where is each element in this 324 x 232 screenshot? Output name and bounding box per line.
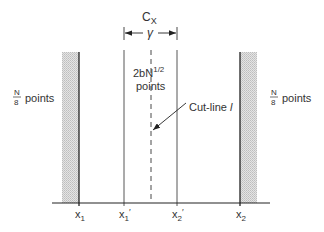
x2-label-sub: 2 xyxy=(242,214,247,223)
left-point-band xyxy=(62,52,79,203)
cut-line-pointer xyxy=(153,103,186,130)
x2-prime-mark: ′ xyxy=(182,207,184,217)
svg-text:x2: x2 xyxy=(236,208,247,223)
svg-text:CX: CX xyxy=(142,10,157,26)
cut-line-diagram: CX γ 2bN1/2 points Cut-linel N 8 points … xyxy=(0,0,324,232)
left-points-label: points xyxy=(25,92,55,104)
x1-label-sub: 1 xyxy=(81,214,86,223)
center-label-points: points xyxy=(136,80,166,92)
svg-text:x1′: x1′ xyxy=(119,207,131,223)
right-fraction-num: N xyxy=(271,88,277,97)
left-fraction-num: N xyxy=(14,88,20,97)
center-label-sup: 1/2 xyxy=(153,65,165,74)
center-label-main: 2bN xyxy=(133,67,153,79)
svg-text:2bN1/2: 2bN1/2 xyxy=(133,65,165,79)
right-fraction-den: 8 xyxy=(271,98,276,107)
cutline-label: Cut-line xyxy=(189,101,227,113)
x1-prime-mark: ′ xyxy=(129,207,131,217)
svg-text:x2′: x2′ xyxy=(172,207,184,223)
svg-text:Cut-linel: Cut-linel xyxy=(189,101,233,113)
left-fraction-den: 8 xyxy=(14,98,19,107)
right-point-band xyxy=(240,52,257,203)
cutline-symbol: l xyxy=(230,101,233,113)
cx-label-sub: X xyxy=(151,16,157,26)
gamma-label: γ xyxy=(147,26,154,40)
cx-label: C xyxy=(142,10,151,24)
svg-text:x1: x1 xyxy=(75,208,86,223)
right-points-label: points xyxy=(282,92,312,104)
